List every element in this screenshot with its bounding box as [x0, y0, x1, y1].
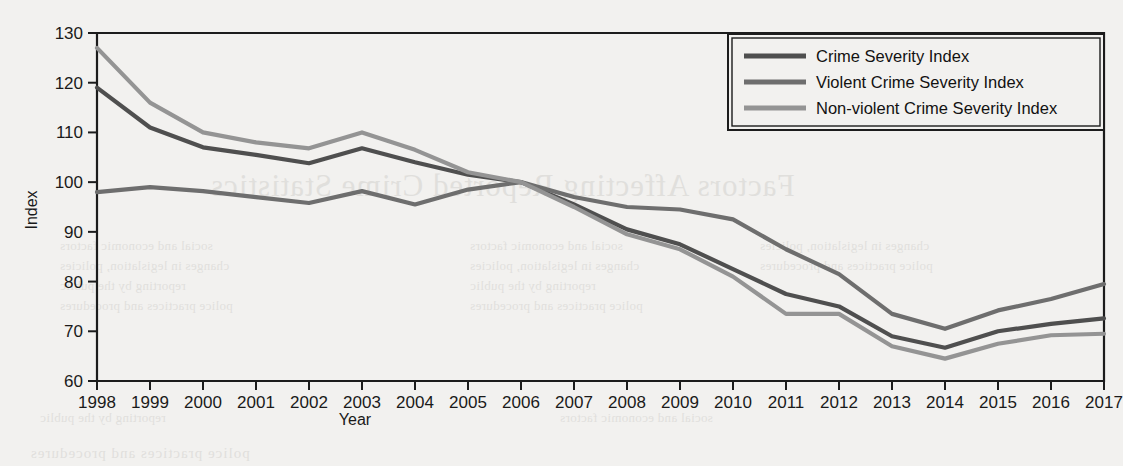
x-tick-label: 2000	[184, 393, 222, 412]
y-tick-label: 60	[64, 372, 83, 391]
series-line	[97, 182, 1104, 329]
x-axis-ticks: 1998199920002001200220032004200520062007…	[78, 381, 1123, 412]
x-tick-label: 1999	[131, 393, 169, 412]
line-chart: 60708090100110120130 1998199920002001200…	[0, 0, 1123, 466]
legend-label: Non-violent Crime Severity Index	[816, 99, 1058, 117]
x-tick-label: 2012	[820, 393, 858, 412]
y-tick-label: 120	[55, 74, 83, 93]
x-tick-label: 2006	[502, 393, 540, 412]
x-tick-label: 2004	[396, 393, 434, 412]
y-axis-ticks: 60708090100110120130	[55, 24, 97, 391]
x-tick-label: 2013	[873, 393, 911, 412]
x-tick-label: 2014	[926, 393, 964, 412]
x-tick-label: 2001	[237, 393, 275, 412]
x-tick-label: 2009	[661, 393, 699, 412]
x-tick-label: 2016	[1032, 393, 1070, 412]
y-tick-label: 100	[55, 173, 83, 192]
x-tick-label: 2011	[768, 393, 805, 412]
x-tick-label: 2010	[714, 393, 752, 412]
y-tick-label: 90	[64, 223, 83, 242]
y-axis-title: Index	[23, 190, 40, 229]
x-tick-label: 2007	[555, 393, 593, 412]
legend-label: Crime Severity Index	[816, 47, 970, 65]
chart-legend: Crime Severity IndexViolent Crime Severi…	[728, 34, 1104, 130]
figure-page: Factors Affecting Reported Crime Statist…	[0, 0, 1123, 466]
y-tick-label: 80	[64, 273, 83, 292]
x-tick-label: 2015	[979, 393, 1017, 412]
chart-area: 60708090100110120130 1998199920002001200…	[0, 0, 1123, 466]
y-tick-label: 70	[64, 322, 83, 341]
x-tick-label: 2002	[290, 393, 328, 412]
x-axis-title: Year	[339, 411, 372, 428]
y-tick-label: 130	[55, 24, 83, 43]
x-tick-label: 2003	[343, 393, 381, 412]
y-tick-label: 110	[56, 123, 83, 142]
x-tick-label: 2017	[1085, 393, 1123, 412]
x-tick-label: 2008	[608, 393, 646, 412]
x-tick-label: 2005	[449, 393, 487, 412]
x-tick-label: 1998	[78, 393, 116, 412]
legend-label: Violent Crime Severity Index	[816, 73, 1025, 91]
